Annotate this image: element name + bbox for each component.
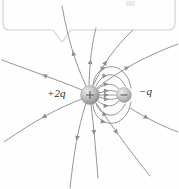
field-arrowhead: [104, 103, 109, 108]
line-far-1: [62, 6, 86, 86]
line-far-4: [97, 44, 178, 88]
negative-charge-label: −q: [139, 85, 152, 97]
positive-charge: [81, 86, 100, 105]
field-arrowhead: [104, 93, 109, 98]
negative-charge: [117, 88, 132, 103]
field-arrowhead: [124, 64, 131, 71]
electric-field-diagram: [0, 0, 179, 189]
line-far-3: [93, 30, 133, 86]
annotation-callout-box: [3, 0, 175, 42]
line-far-6: [4, 99, 82, 142]
field-arrowhead: [70, 50, 76, 56]
line-far-7: [70, 103, 86, 188]
line-far-8: [91, 104, 98, 178]
field-arrowhead: [41, 72, 47, 78]
field-arrowhead: [104, 97, 109, 102]
positive-charge-label: +2q: [47, 87, 65, 99]
field-arrowhead: [143, 114, 150, 121]
line-bound-5: [98, 101, 119, 106]
line-far-5: [2, 60, 82, 90]
clipped-text-remnant: [126, 1, 135, 6]
field-arrowhead: [104, 88, 109, 93]
line-far-9: [96, 103, 150, 176]
field-arrowhead: [91, 130, 96, 135]
line-far-10: [130, 108, 178, 132]
field-arrowhead: [40, 113, 47, 120]
figure-canvas: +2q −q: [0, 0, 179, 189]
field-arrowhead: [88, 59, 93, 64]
